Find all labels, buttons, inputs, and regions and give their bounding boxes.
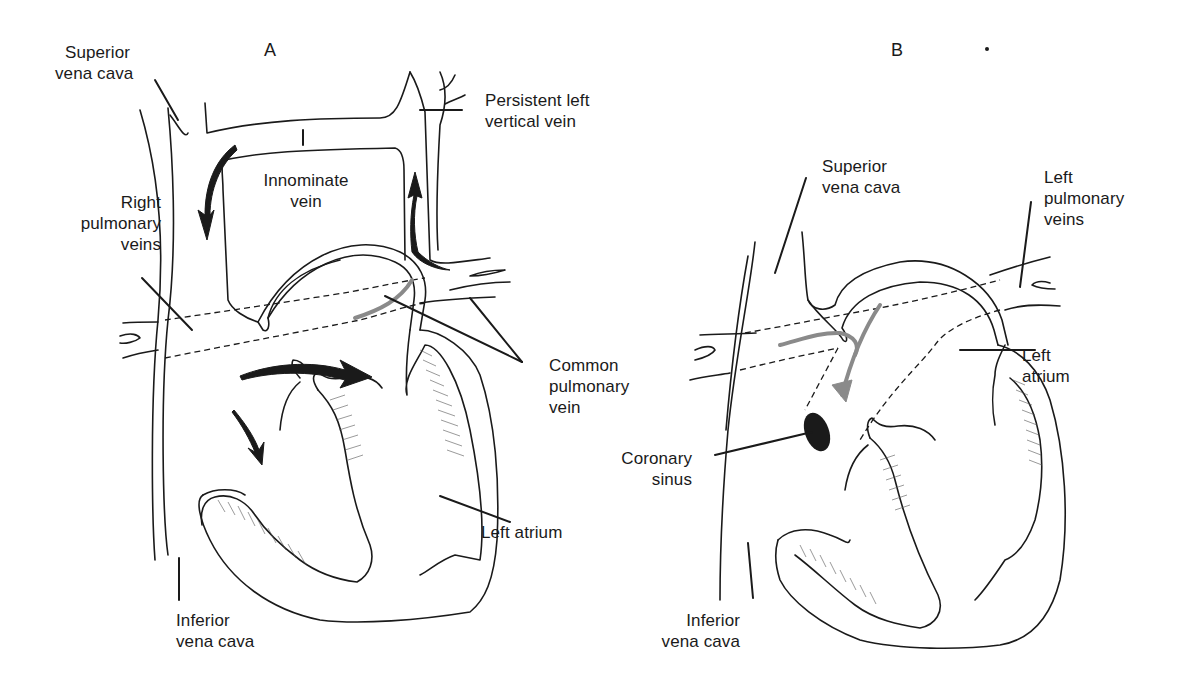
leader-svc-a (155, 80, 178, 120)
heart-diagram-drawing (0, 0, 1193, 693)
leader-common-pv-2 (470, 298, 522, 362)
label-persistent-left-vertical-vein: Persistent left vertical vein (485, 90, 590, 132)
label-innominate-vein: Innominate vein (256, 170, 356, 212)
figure-canvas: A Superior vena cava Persistent left ver… (0, 0, 1193, 693)
stray-dot (985, 47, 989, 51)
label-superior-vena-cava-b: Superior vena cava (822, 156, 900, 198)
label-right-pulmonary-veins: Right pulmonary veins (56, 192, 161, 255)
label-coronary-sinus: Coronary sinus (610, 448, 692, 490)
label-inferior-vena-cava-a: Inferior vena cava (176, 610, 254, 652)
panel-b-drawing (690, 178, 1065, 648)
label-inferior-vena-cava-b: Inferior vena cava (660, 610, 740, 652)
leader-left-pulm-veins (1020, 202, 1031, 287)
label-common-pulmonary-vein: Common pulmonary vein (549, 355, 629, 418)
leader-svc-b (775, 178, 806, 273)
coronary-sinus-opening (799, 409, 835, 455)
label-left-pulmonary-veins: Left pulmonary veins (1044, 167, 1124, 230)
panel-a-drawing (120, 72, 522, 622)
leader-left-atrium-a (440, 496, 510, 522)
panel-a-letter: A (264, 40, 276, 61)
label-superior-vena-cava-a: Superior vena cava (55, 42, 130, 84)
leader-ivc-b (748, 543, 753, 598)
leader-coronary-sinus (715, 432, 812, 455)
label-left-atrium-a: Left atrium (481, 522, 562, 543)
label-left-atrium-b: Left atrium (1022, 345, 1070, 387)
leader-common-pv-1 (385, 296, 522, 362)
panel-b-letter: B (891, 40, 903, 61)
